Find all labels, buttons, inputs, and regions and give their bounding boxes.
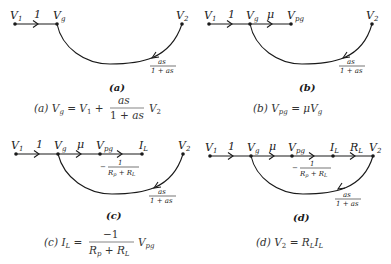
equation-b: (b) Vpg = μVg <box>253 102 323 116</box>
svg-text:V2: V2 <box>149 102 161 116</box>
node-vg <box>249 154 253 158</box>
label-v2: V2 <box>176 9 189 23</box>
svg-text:−1: −1 <box>103 228 118 240</box>
node-v1 <box>13 22 17 26</box>
svg-text:1: 1 <box>228 140 235 153</box>
svg-text:Rp + RL: Rp + RL <box>88 244 130 258</box>
equation-c: (c) IL = −1 Rp + RL Vpg <box>44 228 155 258</box>
caption-b: (b) <box>299 82 316 93</box>
label-v1: V1 <box>10 9 22 23</box>
svg-text:V1: V1 <box>11 139 23 153</box>
feedback-num: as <box>158 58 166 66</box>
label-v2: V2 <box>366 9 379 23</box>
caption-c: (c) <box>106 210 122 221</box>
label-vg: Vg <box>53 9 66 23</box>
svg-text:1 + as: 1 + as <box>150 197 173 205</box>
svg-text:Rp + RL: Rp + RL <box>299 170 328 179</box>
svg-text:(b) Vpg = μVg: (b) Vpg = μVg <box>253 102 323 116</box>
gain-mu: μ <box>267 8 274 21</box>
node-vpg <box>98 152 102 156</box>
svg-text:1: 1 <box>36 138 43 151</box>
node-v1 <box>14 152 18 156</box>
svg-text:1: 1 <box>228 8 235 21</box>
node-vg <box>56 152 60 156</box>
gain-rl: RL <box>349 141 363 155</box>
svg-text:(a) Vg = V1 +: (a) Vg = V1 + <box>34 102 104 116</box>
svg-text:Vpg: Vpg <box>138 236 155 250</box>
svg-text:Vg: Vg <box>54 139 67 153</box>
node-vpg <box>289 22 293 26</box>
node-vpg <box>290 154 294 158</box>
label-vg: Vg <box>246 9 259 23</box>
svg-text:V2: V2 <box>178 139 191 153</box>
svg-text:V1: V1 <box>205 141 217 155</box>
feedback-den: 1 + as <box>151 67 174 75</box>
node-v1 <box>207 22 211 26</box>
svg-text:IL: IL <box>138 139 148 153</box>
arrow-icon <box>338 183 345 189</box>
svg-text:as: as <box>158 188 166 196</box>
svg-text:−: − <box>100 163 106 171</box>
svg-text:Rp + RL: Rp + RL <box>107 169 136 178</box>
svg-text:(c) IL =: (c) IL = <box>44 236 82 250</box>
equation-a: (a) Vg = V1 + as 1 + as V2 <box>34 94 161 121</box>
node-v1 <box>208 154 212 158</box>
svg-text:1 + as: 1 + as <box>110 109 144 121</box>
node-v2 <box>181 152 185 156</box>
svg-text:as: as <box>347 58 355 66</box>
gain-1: 1 <box>34 8 41 21</box>
panel-b: V1 1 Vg μ Vpg V2 as 1 + as (b) (b) Vpg =… <box>204 8 379 116</box>
node-vg <box>55 22 59 26</box>
gain-load: − 1 Rp + RL <box>100 159 139 178</box>
svg-text:1 + as: 1 + as <box>336 200 359 208</box>
label-v1: V1 <box>204 9 216 23</box>
svg-text:Vg: Vg <box>247 141 260 155</box>
svg-text:as: as <box>118 94 130 106</box>
svg-text:1: 1 <box>310 160 314 168</box>
svg-text:V2: V2 <box>369 141 382 155</box>
equation-d: (d) V2 = RLIL <box>256 236 324 250</box>
svg-text:1: 1 <box>118 159 122 167</box>
gain-load: − 1 Rp + RL <box>292 160 331 179</box>
svg-text:−: − <box>292 164 298 172</box>
panel-c: V1 1 Vg μ Vpg IL V2 − 1 Rp + RL as 1 + a… <box>11 138 191 258</box>
panel-d: V1 1 Vg μ Vpg IL RL V2 − 1 Rp + RL as 1 … <box>205 140 382 250</box>
svg-text:1 + as: 1 + as <box>340 67 363 75</box>
signal-flow-graph-figure: V1 1 Vg V2 as 1 + as (a) (a) Vg = V1 + a… <box>0 0 391 264</box>
svg-text:IL: IL <box>329 141 339 155</box>
svg-text:Vpg: Vpg <box>288 141 305 155</box>
caption-a: (a) <box>109 82 125 93</box>
node-v2 <box>371 154 375 158</box>
label-vpg: Vpg <box>287 9 304 23</box>
svg-text:(d) V2 = RLIL: (d) V2 = RLIL <box>256 236 324 250</box>
caption-d: (d) <box>293 212 310 223</box>
svg-text:μ: μ <box>269 140 276 153</box>
node-vg <box>248 22 252 26</box>
svg-text:as: as <box>343 191 351 199</box>
panel-a: V1 1 Vg V2 as 1 + as (a) (a) Vg = V1 + a… <box>10 8 189 121</box>
svg-text:Vpg: Vpg <box>96 139 113 153</box>
svg-text:μ: μ <box>77 138 84 151</box>
